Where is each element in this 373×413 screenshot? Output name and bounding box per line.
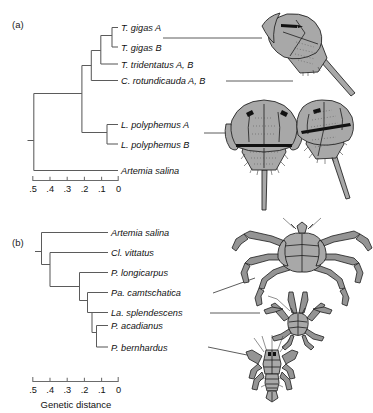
panel-a: (a) xyxy=(12,13,355,210)
taxon-label-c-rotundicauda: C. rotundicauda A, B xyxy=(121,76,205,86)
panel-a-axis: .5 .4 .3 .2 .1 0 xyxy=(29,176,121,194)
panel-b-label: (b) xyxy=(12,237,24,248)
panel-a-tick-3: .2 xyxy=(81,184,89,194)
taxon-label-t-gigas-a: T. gigas A xyxy=(121,23,161,33)
taxon-label-l-polyphemus-b: L. polyphemus B xyxy=(121,140,189,150)
taxon-label-la-splendescens: La. splendescens xyxy=(111,308,183,318)
leader-to-pagurus-bernhardus xyxy=(208,347,247,355)
taxon-label-t-tridentatus: T. tridentatus A, B xyxy=(121,60,193,70)
illustration-paralithodes-camtschatica-king-crab xyxy=(232,218,372,306)
panel-b-axis-title: Genetic distance xyxy=(41,399,112,410)
panel-b-tick-1: .4 xyxy=(46,385,54,395)
phylogenetic-figure: (a) xyxy=(0,0,373,413)
panel-b: (b) xyxy=(12,218,372,410)
illustration-tachypleus-gigas-horseshoe-crab xyxy=(262,13,355,96)
taxon-label-p-bernhardus: P. bernhardus xyxy=(111,343,168,353)
taxon-label-p-longicarpus: P. longicarpus xyxy=(111,268,168,278)
panel-a-tick-2: .3 xyxy=(64,184,72,194)
taxon-label-pa-camtschatica: Pa. camtschatica xyxy=(111,288,181,298)
figure-canvas: (a) xyxy=(0,0,373,413)
panel-b-tick-2: .3 xyxy=(64,385,72,395)
panel-b-tick-4: .1 xyxy=(98,385,106,395)
illustration-limulus-polyphemus-horseshoe-crab xyxy=(225,100,303,210)
taxon-label-artemia-salina-a: Artemia salina xyxy=(120,166,179,176)
illustration-labidochirus-splendescens-hermit-crab xyxy=(264,292,332,350)
taxon-label-artemia-salina-b: Artemia salina xyxy=(110,228,169,238)
taxon-label-l-polyphemus-a: L. polyphemus A xyxy=(121,120,189,130)
panel-a-tick-0: .5 xyxy=(29,184,37,194)
panel-a-tree-branches xyxy=(28,28,119,171)
panel-a-tick-1: .4 xyxy=(46,184,54,194)
panel-b-leader-lines xyxy=(208,278,260,355)
panel-a-label: (a) xyxy=(12,19,24,30)
panel-b-tick-0: .5 xyxy=(29,385,37,395)
panel-a-tick-4: .1 xyxy=(98,184,106,194)
panel-b-tick-3: .2 xyxy=(81,385,89,395)
panel-a-tick-5: 0 xyxy=(116,184,121,194)
taxon-label-p-acadianus: P. acadianus xyxy=(111,321,163,331)
taxon-label-t-gigas-b: T. gigas B xyxy=(121,43,162,53)
panel-b-tick-5: 0 xyxy=(116,385,121,395)
panel-b-tree-branches xyxy=(35,233,108,348)
taxon-label-cl-vittatus: Cl. vittatus xyxy=(111,248,154,258)
illustration-carcinoscorpius-rotundicauda-horseshoe-crab xyxy=(297,100,354,199)
panel-b-axis: .5 .4 .3 .2 .1 0 Genetic distance xyxy=(29,377,121,410)
